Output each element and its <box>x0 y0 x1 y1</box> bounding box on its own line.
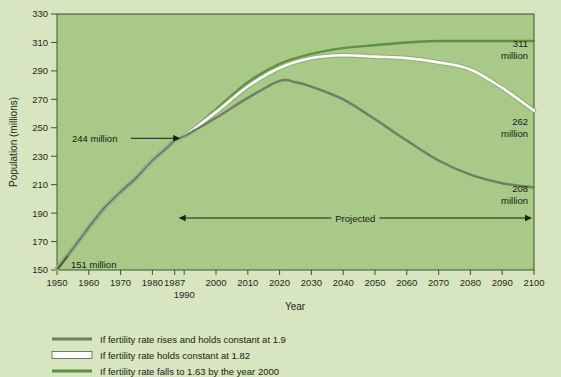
legend-swatch-2-white-box <box>52 352 92 359</box>
y-tick-label: 210 <box>32 179 48 190</box>
y-tick-label: 230 <box>32 151 48 162</box>
legend-label-3: If fertility rate falls to 1.63 by the y… <box>100 366 279 377</box>
annotation-244-million: 244 million <box>72 133 117 144</box>
x-tick-label: 2080 <box>460 277 481 288</box>
y-tick-label: 150 <box>32 264 48 275</box>
legend-label-1: If fertility rate rises and holds consta… <box>100 334 286 345</box>
x-tick-label: 1960 <box>78 277 99 288</box>
y-tick-label: 330 <box>32 8 48 19</box>
end-label-311-unit: million <box>501 50 528 61</box>
y-tick-label: 290 <box>32 65 48 76</box>
x-tick-label: 1970 <box>110 277 131 288</box>
x-tick-label-1990: 1990 <box>174 289 195 300</box>
y-tick-label: 170 <box>32 236 48 247</box>
chart-canvas: 150170190210230250270290310330 195019601… <box>0 0 561 377</box>
x-tick-label: 2040 <box>333 277 354 288</box>
x-tick-label: 1987 <box>164 277 185 288</box>
x-tick-label: 2050 <box>364 277 385 288</box>
x-tick-label: 2030 <box>301 277 322 288</box>
x-tick-label: 2070 <box>428 277 449 288</box>
x-tick-label: 2090 <box>492 277 513 288</box>
end-label-311: 311 <box>513 38 528 49</box>
x-tick-label: 2100 <box>523 277 544 288</box>
x-tick-label: 2010 <box>237 277 258 288</box>
y-tick-label: 310 <box>32 37 48 48</box>
annotation-151-million: 151 million <box>71 259 116 270</box>
y-tick-label: 250 <box>32 122 48 133</box>
legend-label-2: If fertility rate holds constant at 1.82 <box>100 350 250 361</box>
x-tick-label: 2000 <box>205 277 226 288</box>
y-tick-label: 270 <box>32 94 48 105</box>
end-label-262-unit: million <box>501 128 528 139</box>
plot-area-background <box>57 14 534 270</box>
x-tick-label: 2060 <box>396 277 417 288</box>
y-tick-label: 190 <box>32 208 48 219</box>
x-tick-label: 1950 <box>46 277 67 288</box>
y-axis-title: Population (millions) <box>8 97 19 187</box>
population-projection-chart: 150170190210230250270290310330 195019601… <box>0 0 561 377</box>
x-tick-label: 1980 <box>142 277 163 288</box>
annotation-projected: Projected <box>335 213 375 224</box>
end-label-262: 262 <box>512 116 528 127</box>
end-label-208-unit: million <box>501 195 528 206</box>
x-axis-title: Year <box>285 301 306 312</box>
end-label-208: 208 <box>512 183 528 194</box>
x-tick-label: 2020 <box>269 277 290 288</box>
